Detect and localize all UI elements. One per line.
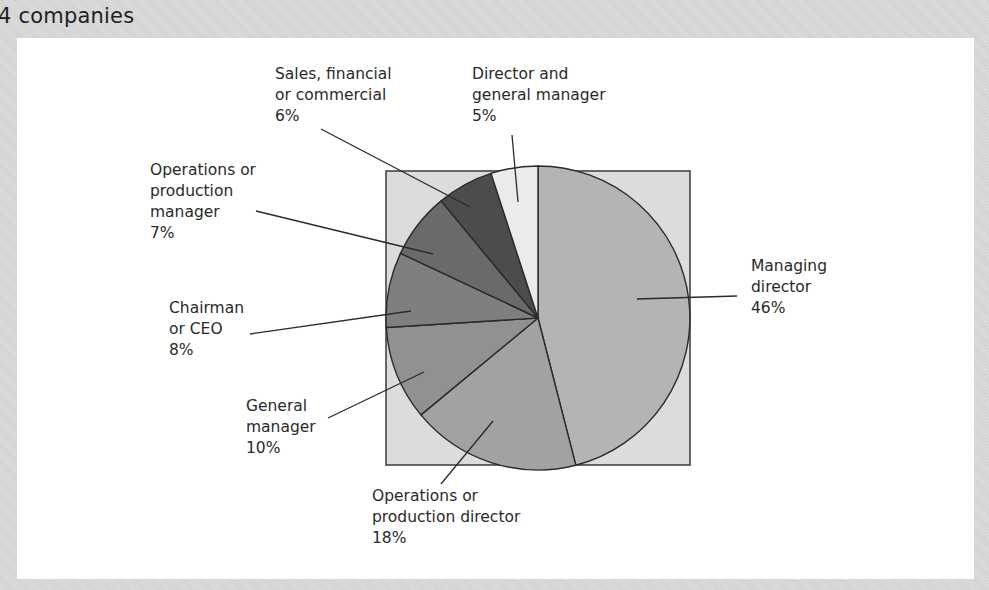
label-line: or commercial bbox=[275, 85, 392, 106]
label-operations-manager: Operations or production manager 7% bbox=[150, 160, 256, 244]
label-chairman-ceo: Chairman or CEO 8% bbox=[169, 298, 244, 361]
label-value: 18% bbox=[372, 528, 520, 549]
label-value: 5% bbox=[472, 106, 606, 127]
label-line: manager bbox=[150, 202, 256, 223]
label-value: 8% bbox=[169, 340, 244, 361]
label-line: manager bbox=[246, 417, 316, 438]
label-line: Managing bbox=[751, 256, 827, 277]
label-general-manager: General manager 10% bbox=[246, 396, 316, 459]
label-value: 10% bbox=[246, 438, 316, 459]
label-operations-director: Operations or production director 18% bbox=[372, 486, 520, 549]
label-line: Sales, financial bbox=[275, 64, 392, 85]
label-line: Operations or bbox=[150, 160, 256, 181]
label-managing-director: Managing director 46% bbox=[751, 256, 827, 319]
label-line: director bbox=[751, 277, 827, 298]
label-line: General bbox=[246, 396, 316, 417]
label-line: Director and bbox=[472, 64, 606, 85]
label-value: 6% bbox=[275, 106, 392, 127]
label-line: Chairman bbox=[169, 298, 244, 319]
label-line: production director bbox=[372, 507, 520, 528]
label-line: Operations or bbox=[372, 486, 520, 507]
label-line: production bbox=[150, 181, 256, 202]
label-line: or CEO bbox=[169, 319, 244, 340]
label-director-general-manager: Director and general manager 5% bbox=[472, 64, 606, 127]
label-line: general manager bbox=[472, 85, 606, 106]
label-sales-financial-commercial: Sales, financial or commercial 6% bbox=[275, 64, 392, 127]
label-value: 7% bbox=[150, 223, 256, 244]
label-value: 46% bbox=[751, 298, 827, 319]
